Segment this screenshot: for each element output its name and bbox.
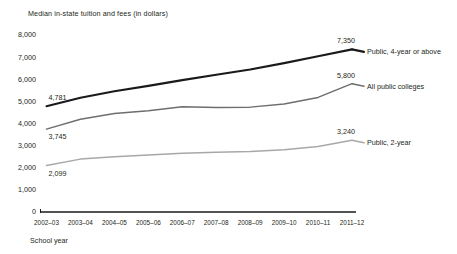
series-start-value: 4,781 xyxy=(49,93,67,102)
series-end-value: 5,800 xyxy=(337,71,355,80)
series-start-value: 3,745 xyxy=(49,132,67,141)
tuition-line-chart: Median in-state tuition and fees (in dol… xyxy=(0,0,457,254)
series-name-label: Public, 2-year xyxy=(367,138,411,147)
series-name-label: All public colleges xyxy=(367,82,424,91)
series-line xyxy=(47,49,353,106)
series-end-value: 3,240 xyxy=(337,127,355,136)
series-line xyxy=(47,84,353,129)
series-leader-line xyxy=(352,84,364,87)
x-axis-title: School year xyxy=(30,236,68,245)
series-leader-line xyxy=(352,140,364,143)
series-start-value: 2,099 xyxy=(49,169,67,178)
series-end-value: 7,350 xyxy=(337,36,355,45)
series-line xyxy=(47,140,353,165)
plot-area xyxy=(0,0,457,254)
series-name-label: Public, 4-year or above xyxy=(367,47,441,56)
series-leader-line xyxy=(352,49,364,52)
